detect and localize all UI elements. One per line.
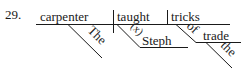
subject-modifier-word: The <box>85 23 110 48</box>
exercise-number: 29. <box>5 7 21 22</box>
verb-word: taught <box>117 9 150 24</box>
diagram-canvas: 29. carpenter taught tricks The (x) Step… <box>0 0 244 70</box>
indirect-object-word: Steph <box>142 33 172 48</box>
subject-word: carpenter <box>40 9 89 24</box>
sentence-diagram: 29. carpenter taught tricks The (x) Step… <box>0 0 244 70</box>
